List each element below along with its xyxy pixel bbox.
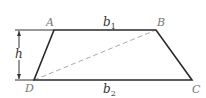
trapezoid-diagram: A B C D b1 b2 h (0, 0, 206, 98)
vertex-label-b: B (156, 16, 165, 29)
height-arrow-up-icon (17, 31, 21, 36)
vertex-label-d: D (24, 82, 34, 95)
diagonal-db (34, 30, 156, 80)
top-base-label: b1 (103, 15, 116, 31)
height-arrow-down-icon (17, 74, 21, 79)
height-label: h (15, 47, 23, 61)
vertex-label-c: C (192, 83, 201, 96)
vertex-label-a: A (45, 16, 54, 29)
trapezoid-shape (34, 30, 192, 80)
bottom-base-label: b2 (103, 82, 116, 98)
